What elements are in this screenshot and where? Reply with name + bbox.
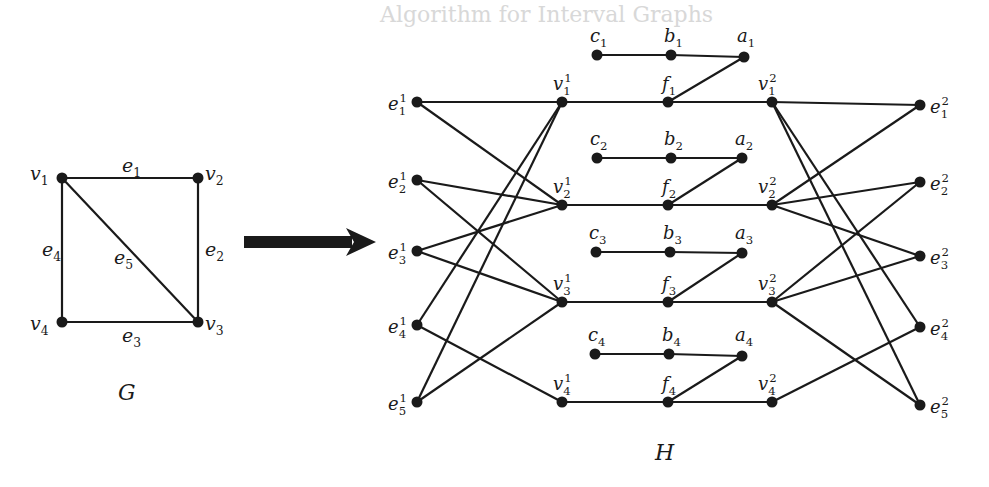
g-vertex-label: v3 <box>205 312 224 338</box>
faded-heading: Algorithm for Interval Graphs <box>379 2 713 27</box>
h-vertex-e13 <box>412 246 423 257</box>
g-edge-label: e1 <box>122 154 141 180</box>
h-edge <box>668 356 742 402</box>
h-vertex-label: e52 <box>930 394 949 421</box>
g-vertex-label: v1 <box>30 162 49 188</box>
h-vertex-e23 <box>915 251 926 262</box>
h-vertex-v42 <box>767 397 778 408</box>
h-vertex-label: e22 <box>930 171 949 198</box>
h-vertex-b2 <box>666 153 677 164</box>
h-vertex-a3 <box>737 248 748 259</box>
h-edge <box>671 55 744 57</box>
h-vertex-label: e41 <box>388 314 407 341</box>
h-edge <box>668 158 742 205</box>
h-vertex-label: v12 <box>758 71 777 98</box>
h-vertex-v41 <box>557 397 568 408</box>
h-edge <box>417 325 562 402</box>
h-vertex-label: v41 <box>553 371 572 398</box>
h-vertex-v22 <box>767 200 778 211</box>
h-vertex-label: f1 <box>660 73 676 98</box>
h-vertex-label: b3 <box>663 222 682 247</box>
h-edge <box>668 253 742 302</box>
h-vertex-label: e42 <box>930 316 949 343</box>
h-vertex-a2 <box>737 153 748 164</box>
g-edge <box>62 178 198 322</box>
h-vertex-label: v42 <box>758 371 777 398</box>
h-vertex-label: f3 <box>660 273 676 298</box>
h-vertex-v21 <box>557 200 568 211</box>
h-vertex-b4 <box>664 349 675 360</box>
h-vertex-a1 <box>739 52 750 63</box>
h-vertex-label: c2 <box>590 128 608 153</box>
g-vertex-label: v4 <box>30 312 49 338</box>
h-edge <box>417 180 562 302</box>
h-vertex-e15 <box>412 397 423 408</box>
h-vertex-a4 <box>737 351 748 362</box>
h-vertex-label: b4 <box>662 324 681 349</box>
g-vertex-label: v2 <box>205 162 224 188</box>
h-vertex-e25 <box>915 400 926 411</box>
h-vertex-e21 <box>915 100 926 111</box>
h-vertex-label: f2 <box>660 176 676 201</box>
h-vertex-e14 <box>412 320 423 331</box>
h-edge <box>669 354 742 356</box>
h-vertex-label: e21 <box>388 169 407 196</box>
h-edge <box>772 182 920 205</box>
graph-h-caption: H <box>654 440 675 465</box>
h-vertex-c2 <box>592 153 603 164</box>
h-vertex-b1 <box>666 50 677 61</box>
h-vertex-label: e51 <box>388 391 407 418</box>
g-vertex-v3 <box>193 317 204 328</box>
g-edge-label: e4 <box>42 238 61 264</box>
h-edge <box>417 102 562 325</box>
h-vertex-label: e32 <box>930 245 949 272</box>
h-vertex-label: a1 <box>737 25 755 50</box>
h-vertex-label: f4 <box>660 373 676 398</box>
h-vertex-label: c3 <box>589 222 607 247</box>
h-vertex-v32 <box>767 297 778 308</box>
h-edge <box>668 57 744 102</box>
h-edge <box>772 182 920 302</box>
g-vertex-v1 <box>57 173 68 184</box>
h-vertex-label: b1 <box>664 25 683 50</box>
graph-g-caption: G <box>118 380 136 405</box>
h-vertex-label: a2 <box>735 128 753 153</box>
h-vertex-v11 <box>557 97 568 108</box>
h-edge <box>417 302 562 402</box>
h-vertex-label: c4 <box>588 324 606 349</box>
h-vertex-label: e12 <box>930 94 949 121</box>
h-vertex-label: v21 <box>553 174 572 201</box>
h-vertex-f3 <box>663 297 674 308</box>
transform-arrow-icon <box>244 228 376 256</box>
g-vertex-v2 <box>193 173 204 184</box>
h-vertex-e22 <box>915 177 926 188</box>
background-faded-text: Algorithm for Interval Graphs <box>379 2 713 27</box>
h-edge <box>772 102 920 405</box>
h-vertex-f2 <box>663 200 674 211</box>
h-vertex-c3 <box>591 247 602 258</box>
h-vertex-label: a4 <box>735 324 753 349</box>
h-vertex-e11 <box>412 97 423 108</box>
h-edge <box>417 102 562 402</box>
g-edge-label: e3 <box>122 324 141 350</box>
h-edge <box>772 102 920 327</box>
h-edge <box>670 252 742 253</box>
h-vertex-e24 <box>915 322 926 333</box>
h-vertex-label: v32 <box>758 271 777 298</box>
graph-h-labels: e11e21e31e41e51v11v21v31v41f1f2f3f4v12v2… <box>388 25 949 421</box>
h-vertex-label: e31 <box>388 240 407 267</box>
h-edge <box>417 102 562 205</box>
h-vertex-v12 <box>767 97 778 108</box>
h-edge <box>417 180 562 205</box>
graph-transformation-figure: Algorithm for Interval Graphs v1v2v3v4e1… <box>0 0 989 487</box>
g-edge-label: e2 <box>205 238 224 264</box>
h-vertex-f4 <box>663 397 674 408</box>
h-vertex-label: c1 <box>590 25 608 50</box>
h-edge <box>417 251 562 302</box>
g-vertex-v4 <box>57 317 68 328</box>
h-vertex-b3 <box>665 247 676 258</box>
h-vertex-label: v22 <box>758 174 777 201</box>
h-vertex-f1 <box>663 97 674 108</box>
h-vertex-e12 <box>412 175 423 186</box>
h-vertex-label: e11 <box>388 91 407 118</box>
